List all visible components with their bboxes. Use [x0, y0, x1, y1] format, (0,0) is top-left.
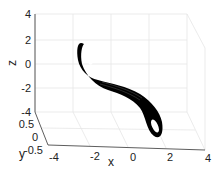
- z-axis-label: z: [5, 60, 19, 66]
- svg-text:2: 2: [167, 151, 173, 163]
- z-axis-ticks: 4 2 0 -2 -4: [21, 8, 31, 118]
- svg-text:0: 0: [130, 151, 136, 163]
- svg-text:-4: -4: [21, 106, 31, 118]
- svg-text:2: 2: [25, 34, 31, 46]
- svg-text:-2: -2: [21, 82, 31, 94]
- svg-text:4: 4: [205, 152, 211, 164]
- svg-text:4: 4: [25, 8, 31, 20]
- svg-text:-0.5: -0.5: [24, 144, 43, 156]
- svg-text:0: 0: [32, 131, 38, 143]
- attractor-3d-plot: 4 2 0 -2 -4 z 0.5 0 -0.5 y -4 -2 0 2 4 x: [0, 0, 222, 173]
- svg-text:-2: -2: [90, 150, 100, 162]
- x-axis-label: x: [108, 155, 114, 169]
- y-axis-label: y: [19, 147, 25, 161]
- x-axis-ticks: -4 -2 0 2 4: [49, 150, 211, 164]
- svg-text:-4: -4: [49, 151, 59, 163]
- svg-text:0.5: 0.5: [19, 118, 34, 130]
- attractor-trajectory: [77, 43, 162, 137]
- svg-text:0: 0: [25, 58, 31, 70]
- grid: [35, 14, 205, 150]
